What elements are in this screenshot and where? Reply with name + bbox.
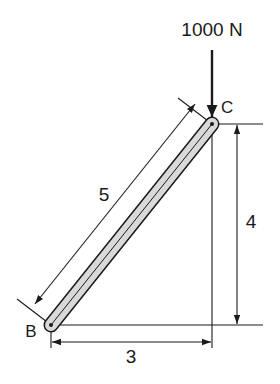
point-label-b: B [25, 322, 36, 341]
joint-b-pin [49, 323, 53, 327]
truss-member-diagram: 1000 N 5 4 3 C B [0, 0, 280, 384]
joint-c-pin [210, 122, 214, 126]
point-label-c: C [221, 98, 233, 117]
svg-text:1000 N: 1000 N [181, 19, 242, 40]
dimension-length-arrow [35, 104, 195, 304]
member-bc [49, 122, 214, 327]
load-label: 1000 N [181, 19, 242, 40]
dimension-width-label: 3 [126, 346, 137, 367]
dimension-length-label: 5 [99, 184, 110, 205]
dimension-height-label: 4 [246, 211, 257, 232]
